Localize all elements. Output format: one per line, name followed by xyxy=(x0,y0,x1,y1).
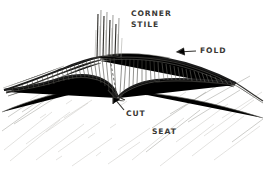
corner-stile-strokes xyxy=(95,10,122,58)
corner-stile-label-line1: CORNER xyxy=(131,9,172,18)
seat-annotation: SEAT xyxy=(152,127,177,136)
seat-label: SEAT xyxy=(152,127,177,136)
fold-arrow-icon xyxy=(177,48,196,55)
corner-stile-annotation: CORNER STILE xyxy=(131,9,172,29)
cut-annotation: CUT xyxy=(113,97,146,118)
fold-label: FOLD xyxy=(200,46,226,55)
fold-annotation: FOLD xyxy=(177,46,226,55)
mound-right-slope xyxy=(235,83,263,103)
cut-label: CUT xyxy=(126,109,146,118)
sketch-canvas: FOLD CORNER STILE CUT SEAT xyxy=(0,0,265,169)
corner-stile-label-line2: STILE xyxy=(131,20,159,29)
sketch-page: FOLD CORNER STILE CUT SEAT xyxy=(0,0,265,169)
